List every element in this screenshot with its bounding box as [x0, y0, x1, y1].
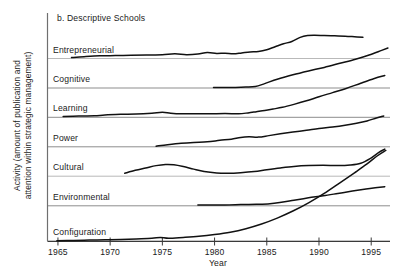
series-curves — [57, 35, 388, 240]
band-label-environmental: Environmental — [53, 192, 110, 202]
x-tick-label: 1985 — [257, 247, 277, 257]
x-axis-title: Year — [209, 258, 227, 268]
series-curve-entrepreneurial — [72, 35, 363, 57]
series-curve-cultural — [125, 149, 385, 173]
band-label-learning: Learning — [53, 103, 88, 113]
series-curve-cognitive — [214, 48, 388, 87]
x-tick-label: 1965 — [48, 247, 68, 257]
series-curve-environmental — [198, 187, 385, 205]
band-label-entrepreneurial: Entrepreneurial — [53, 45, 114, 55]
series-curve-learning — [63, 76, 385, 117]
series-curve-power — [156, 116, 384, 146]
band-label-cultural: Cultural — [53, 162, 84, 172]
x-tick-label: 1995 — [361, 247, 381, 257]
x-tick-label: 1970 — [100, 247, 120, 257]
band-label-power: Power — [53, 133, 78, 143]
x-tick-label: 1990 — [309, 247, 329, 257]
x-tick-label: 1975 — [153, 247, 173, 257]
x-tick-label: 1980 — [205, 247, 225, 257]
band-label-cognitive: Cognitive — [53, 74, 90, 84]
band-baselines — [48, 59, 391, 242]
band-label-configuration: Configuration — [53, 227, 106, 237]
figure-descriptive-schools: Activity (amount of publication and atte… — [0, 0, 395, 279]
